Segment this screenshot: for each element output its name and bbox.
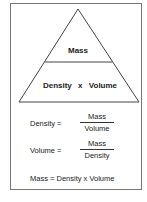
volume-label: Volume [89, 81, 117, 90]
volume-formula-fraction: Mass Density [80, 139, 114, 160]
triangle-bottom-label: Density x Volume [30, 81, 130, 90]
summary-formula: Mass = Density x Volume [30, 174, 114, 183]
volume-formula-lhs: Volume = [30, 146, 61, 155]
denominator: Volume [80, 123, 114, 133]
density-formula-lhs: Density = [30, 119, 61, 128]
density-label: Density [43, 81, 72, 90]
triangle-diagram [0, 0, 147, 202]
denominator: Density [80, 150, 114, 160]
numerator: Mass [80, 139, 114, 150]
numerator: Mass [80, 112, 114, 123]
triangle-top-label: Mass [58, 46, 98, 55]
operator-label: x [78, 81, 82, 90]
density-formula-fraction: Mass Volume [80, 112, 114, 133]
